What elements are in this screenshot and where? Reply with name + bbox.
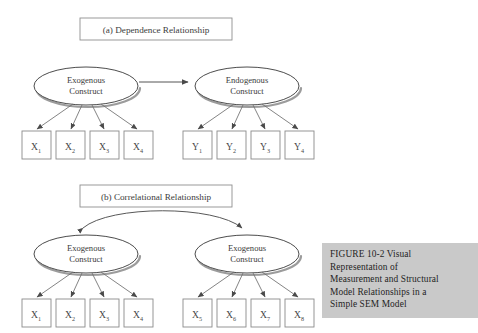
indicator-box: X3: [90, 131, 119, 159]
indicator-box: X4: [124, 299, 153, 327]
arrow-to-x3: [92, 105, 104, 129]
indicators-exogenous-b-right: X5 X6 X7 X8: [183, 299, 314, 327]
arrow-to-y1: [198, 104, 234, 129]
endogenous-a-label-line1: Endogenous: [226, 75, 269, 85]
indicator-box: X2: [56, 131, 85, 159]
arrow-to-x7: [253, 273, 265, 297]
indicators-endogenous-a: Y1 Y2 Y3 Y4: [183, 131, 314, 159]
indicator-box: Y4: [285, 131, 314, 159]
indicator-box: X7: [251, 299, 280, 327]
construct-exogenous-b-right: Exogenous Construct: [195, 235, 301, 275]
arrow-to-x3-b: [92, 273, 104, 297]
indicator-box: X4: [124, 131, 153, 159]
figure-container: (a) Dependence Relationship Exogenous Co…: [0, 0, 478, 333]
arrow-to-x5: [198, 272, 234, 297]
exogenous-b-left-label-line2: Construct: [69, 254, 103, 264]
indicators-exogenous-a: X1 X2 X3 X4: [22, 131, 153, 159]
exogenous-a-label-line1: Exogenous: [67, 75, 106, 85]
panel-a-title: (a) Dependence Relationship: [80, 18, 232, 40]
indicator-box: X3: [90, 299, 119, 327]
panel-a-title-label: (a) Dependence Relationship: [103, 25, 210, 35]
arrow-to-x1-b: [37, 272, 73, 297]
indicator-box: X6: [217, 299, 246, 327]
arrow-to-x2-b: [71, 273, 82, 297]
indicator-box: Y1: [183, 131, 212, 159]
arrow-to-x6: [232, 273, 243, 297]
arrow-to-y2: [232, 105, 243, 129]
indicators-exogenous-b-left: X1 X2 X3 X4: [22, 299, 153, 327]
indicator-box: Y2: [217, 131, 246, 159]
arrow-to-y4: [262, 104, 298, 129]
correlational-curved-arrow: [83, 211, 242, 228]
indicator-box: X1: [22, 299, 51, 327]
construct-exogenous-a: Exogenous Construct: [34, 67, 140, 107]
figure-caption-box: FIGURE 10-2 Visual Representation of Mea…: [322, 243, 478, 318]
arrow-to-x2: [71, 105, 82, 129]
exogenous-a-label-line2: Construct: [69, 86, 103, 96]
panel-b-title-label: (b) Correlational Relationship: [101, 192, 212, 202]
exogenous-b-right-label-line2: Construct: [230, 254, 264, 264]
indicator-box: X1: [22, 131, 51, 159]
panel-b-title: (b) Correlational Relationship: [80, 185, 232, 207]
indicator-box: X5: [183, 299, 212, 327]
exogenous-b-left-label-line1: Exogenous: [67, 243, 106, 253]
endogenous-a-label-line2: Construct: [230, 86, 264, 96]
figure-caption-text: FIGURE 10-2 Visual Representation of Mea…: [330, 248, 472, 311]
arrow-to-x1: [37, 104, 73, 129]
construct-exogenous-b-left: Exogenous Construct: [34, 235, 140, 275]
exogenous-b-right-label-line1: Exogenous: [228, 243, 267, 253]
construct-endogenous-a: Endogenous Construct: [195, 67, 301, 107]
arrow-to-y3: [253, 105, 265, 129]
arrow-to-x8: [262, 272, 298, 297]
indicator-box: X2: [56, 299, 85, 327]
arrow-to-x4-b: [101, 272, 137, 297]
indicator-box: X8: [285, 299, 314, 327]
indicator-box: Y3: [251, 131, 280, 159]
arrow-to-x4: [101, 104, 137, 129]
